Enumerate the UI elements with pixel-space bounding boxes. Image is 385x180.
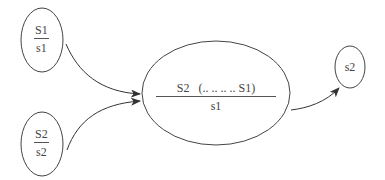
node-result-label: s2	[338, 61, 362, 73]
edge-combined-to-result	[291, 88, 339, 110]
edge-s2-to-combined	[67, 101, 140, 150]
edge-s1-to-combined	[66, 44, 140, 94]
node-combined-label: S2 (.. .. .. .. S1) s1	[156, 82, 276, 112]
node-s2-denominator: s2	[36, 143, 47, 158]
node-s1-numerator: S1	[34, 24, 49, 39]
node-combined-numerator: S2 (.. .. .. .. S1)	[156, 82, 276, 97]
node-s2-numerator: S2	[34, 128, 49, 143]
node-s1-denominator: s1	[36, 39, 47, 54]
node-s1-label: S1 s1	[34, 24, 49, 54]
node-s2-label: S2 s2	[34, 128, 49, 158]
node-combined-denominator: s1	[211, 97, 222, 112]
